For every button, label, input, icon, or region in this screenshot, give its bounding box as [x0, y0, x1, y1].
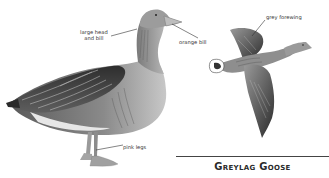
- species-title: Greylag Goose: [176, 161, 329, 172]
- flying-goose: [209, 28, 312, 138]
- goose-drawings: [0, 0, 329, 178]
- label-large-head-line2: and bill: [80, 35, 108, 41]
- label-large-head: large head and bill: [80, 29, 108, 41]
- label-grey-forewing: grey forewing: [266, 14, 302, 20]
- label-pink-legs: pink legs: [123, 144, 146, 150]
- label-orange-bill: orange bill: [179, 39, 207, 45]
- greylag-goose-illustration: large head and bill orange bill pink leg…: [0, 0, 329, 178]
- title-divider: [176, 156, 329, 157]
